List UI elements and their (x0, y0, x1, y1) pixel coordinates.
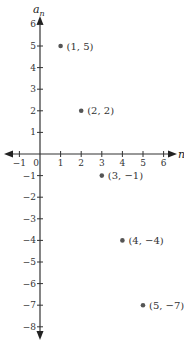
y-tick-label: −7 (23, 300, 37, 310)
y-tick-label: 4 (30, 63, 36, 73)
x-tick-label: 1 (58, 158, 64, 168)
x-tick-label: 3 (99, 158, 105, 168)
x-axis-arrow-right (168, 151, 177, 158)
data-point-label: (1, 5) (67, 41, 94, 52)
y-tick-label: 3 (30, 84, 36, 94)
x-tick-label: 4 (120, 158, 126, 168)
y-tick-label: −6 (23, 279, 37, 289)
y-tick-label: −3 (23, 214, 37, 224)
data-point (100, 173, 105, 178)
points: (1, 5)(2, 2)(3, −1)(4, −4)(5, −7) (58, 41, 184, 311)
y-tick-label: 1 (30, 127, 36, 137)
x-axis-label: n (178, 148, 184, 161)
y-tick-label: 6 (30, 19, 36, 29)
y-tick-label: −1 (23, 171, 36, 181)
x-axis-arrow-left (4, 151, 13, 158)
data-point (79, 109, 84, 114)
x-tick-label: 5 (140, 158, 146, 168)
data-point (120, 238, 125, 243)
y-tick-label: −4 (23, 235, 37, 245)
data-point (58, 44, 63, 49)
x-tick-label: 0 (33, 158, 39, 168)
x-tick-label: −1 (13, 158, 26, 168)
ticks: −10123456654321−1−2−3−4−5−6−7−8 (13, 19, 167, 331)
data-point (141, 303, 146, 308)
y-tick-label: 2 (30, 106, 36, 116)
y-tick-label: −2 (23, 192, 36, 202)
data-point-label: (2, 2) (87, 105, 114, 116)
scatter-chart: −10123456654321−1−2−3−4−5−6−7−8 (1, 5)(2… (0, 0, 184, 347)
y-axis-arrow-down (37, 331, 44, 340)
y-tick-label: −5 (23, 257, 37, 267)
data-point-label: (5, −7) (149, 300, 184, 311)
x-tick-label: 6 (161, 158, 167, 168)
data-point-label: (4, −4) (128, 235, 163, 246)
data-point-label: (3, −1) (108, 170, 143, 181)
y-axis-label: an (33, 3, 45, 18)
x-tick-label: 2 (78, 158, 84, 168)
y-tick-label: −8 (23, 322, 37, 332)
y-tick-label: 5 (30, 41, 36, 51)
